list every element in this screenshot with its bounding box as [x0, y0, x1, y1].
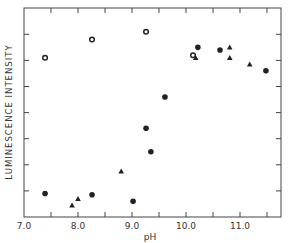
filled-circle-marker — [263, 68, 269, 74]
filled-circle-marker — [143, 125, 149, 131]
filled-circle-marker — [162, 94, 168, 100]
filled-circle-marker — [42, 191, 48, 197]
plot-frame — [24, 8, 281, 217]
x-tick-label: 8.0 — [71, 221, 86, 231]
open-circle-marker — [43, 55, 48, 60]
x-tick-label: 9.0 — [125, 221, 140, 231]
open-circle-marker — [90, 37, 95, 42]
x-tick-label: 7.0 — [17, 221, 32, 231]
filled-circle-marker — [195, 45, 201, 51]
open-circle-marker — [191, 53, 196, 58]
triangle-marker — [227, 45, 233, 50]
filled-circle-marker — [89, 192, 95, 198]
x-tick-labels: 7.08.09.010.011.0 — [17, 221, 250, 231]
triangle-marker — [69, 202, 75, 207]
triangle-marker — [75, 196, 81, 201]
x-axis-label: pH — [144, 232, 156, 242]
filled-circle-marker — [130, 199, 136, 205]
open-circle-marker — [144, 29, 149, 34]
filled-circle-marker — [148, 149, 154, 155]
data-points — [42, 29, 268, 207]
triangle-marker — [227, 55, 233, 60]
x-tick-label: 10.0 — [176, 221, 196, 231]
scatter-chart: 7.08.09.010.011.0 pH LUMINESCENCE INTENS… — [0, 0, 288, 243]
axis-ticks — [24, 8, 281, 217]
triangle-marker — [247, 62, 253, 67]
triangle-marker — [118, 169, 124, 174]
y-axis-label: LUMINESCENCE INTENSITY — [4, 44, 14, 179]
filled-circle-marker — [217, 47, 223, 53]
x-tick-label: 11.0 — [230, 221, 250, 231]
